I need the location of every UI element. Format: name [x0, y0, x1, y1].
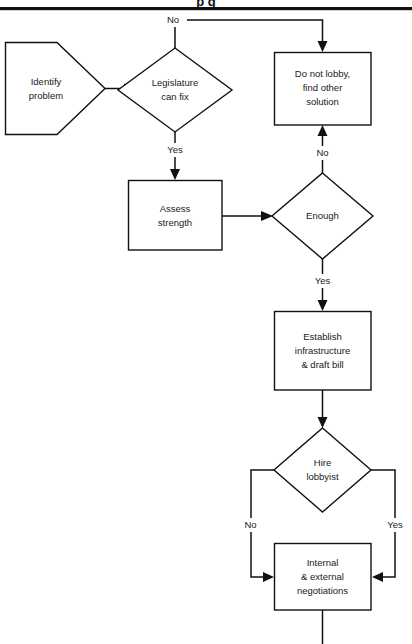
- edge-establish-to-hire: [318, 390, 328, 428]
- do-not-lobby-label-line3: solution: [306, 96, 339, 107]
- edge-enough-yes: Yes: [310, 259, 337, 311]
- arrowhead-icon: [318, 41, 328, 52]
- edge-assess-to-enough: [222, 211, 273, 221]
- arrowhead-icon: [318, 417, 328, 428]
- arrowhead-icon: [318, 300, 328, 311]
- edge-label-hire-yes: Yes: [387, 519, 403, 530]
- do-not-lobby-label-line2: find other: [303, 82, 343, 93]
- flowchart-canvas: p g No Yes: [0, 0, 412, 644]
- edge-legislature-yes: Yes: [162, 132, 189, 180]
- negotiations-label-line2: & external: [301, 571, 344, 582]
- hire-lobbyist-label-line2: lobbyist: [306, 471, 339, 482]
- establish-infrastructure-label-line1: Establish: [303, 331, 342, 342]
- node-legislature-can-fix[interactable]: Legislature can fix: [118, 48, 232, 132]
- header-divider-rule: [0, 7, 412, 10]
- identify-problem-label-line1: Identify: [31, 76, 62, 87]
- assess-strength-label-line2: strength: [158, 217, 192, 228]
- edge-label-legislature-yes: Yes: [167, 144, 183, 155]
- node-hire-lobbyist[interactable]: Hire lobbyist: [274, 428, 371, 512]
- negotiations-label-line1: Internal: [307, 557, 339, 568]
- node-internal-external-negotiations[interactable]: Internal & external negotiations: [275, 544, 372, 611]
- edge-enough-no: No: [310, 125, 336, 173]
- establish-infrastructure-label-line3: & draft bill: [301, 359, 343, 370]
- negotiations-label-line3: negotiations: [297, 585, 348, 596]
- edge-hire-yes: Yes: [371, 470, 409, 582]
- edge-label-enough-no: No: [316, 147, 328, 158]
- node-identify-problem[interactable]: Identify problem: [6, 43, 106, 135]
- arrowhead-icon: [372, 572, 383, 582]
- enough-label: Enough: [306, 210, 339, 221]
- edge-label-hire-no: No: [244, 519, 256, 530]
- node-do-not-lobby[interactable]: Do not lobby, find other solution: [275, 53, 372, 126]
- edge-legislature-no: No: [159, 13, 328, 52]
- edge-label-legislature-no: No: [167, 14, 179, 25]
- edge-hire-no: No: [238, 470, 275, 582]
- edge-label-enough-yes: Yes: [315, 275, 331, 286]
- legislature-can-fix-label-line2: can fix: [161, 91, 189, 102]
- arrowhead-icon: [318, 125, 328, 136]
- flowchart-page: p g No Yes: [0, 0, 412, 644]
- arrowhead-icon: [170, 169, 180, 180]
- node-establish-infrastructure[interactable]: Establish infrastructure & draft bill: [275, 312, 372, 391]
- do-not-lobby-label-line1: Do not lobby,: [295, 68, 350, 79]
- identify-problem-shape: [6, 43, 106, 135]
- arrowhead-icon: [263, 572, 274, 582]
- assess-strength-shape: [129, 181, 223, 251]
- identify-problem-label-line2: problem: [29, 90, 63, 101]
- legislature-can-fix-label-line1: Legislature: [152, 77, 198, 88]
- node-enough[interactable]: Enough: [272, 173, 373, 259]
- hire-lobbyist-label-line1: Hire: [314, 457, 331, 468]
- assess-strength-label-line1: Assess: [160, 203, 191, 214]
- establish-infrastructure-label-line2: infrastructure: [295, 345, 350, 356]
- node-assess-strength[interactable]: Assess strength: [129, 181, 223, 251]
